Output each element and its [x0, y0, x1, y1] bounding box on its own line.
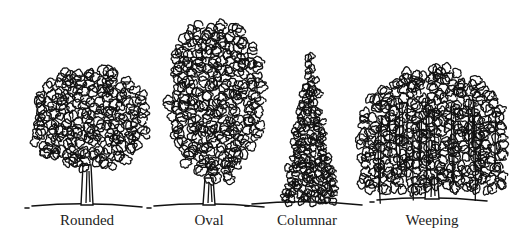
tree-rounded	[25, 65, 150, 208]
tree-oval	[147, 19, 268, 208]
label-weeping: Weeping	[406, 212, 459, 229]
label-oval: Oval	[194, 212, 223, 229]
tree-shapes-illustration	[0, 0, 532, 244]
tree-weeping	[356, 63, 509, 204]
label-rounded: Rounded	[60, 212, 114, 229]
label-columnar: Columnar	[277, 212, 337, 229]
